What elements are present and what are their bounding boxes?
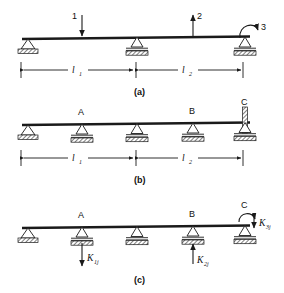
support-c-B-label: B (189, 209, 195, 219)
moment-3-label: 3 (261, 22, 266, 32)
structural-beam-diagram: 1 2 3 (0, 0, 284, 293)
dim-l2-label: l (182, 65, 185, 75)
support-c-A-label: A (78, 210, 84, 220)
reaction-k2j-sub: 2j (204, 261, 209, 267)
support-c-C-label: C (241, 200, 248, 210)
dim-l1-label: l (72, 65, 75, 75)
load-1-label: 1 (72, 11, 77, 21)
support-b-C-label: C (241, 97, 248, 107)
reaction-k2j-label: K (196, 255, 204, 265)
panel-a-caption: (a) (134, 87, 145, 97)
figure-canvas: 1 2 3 (0, 0, 284, 293)
dim-b-l2-sub: 2 (189, 159, 192, 165)
support-b-B-label: B (189, 106, 195, 116)
reaction-k3j-sub: 3j (265, 224, 271, 230)
support-b-A-label: A (78, 107, 84, 117)
dim-b-l1-label: l (72, 153, 75, 163)
reaction-k3j-label: K (258, 218, 266, 228)
panel-b-caption: (b) (134, 175, 146, 185)
load-2-label: 2 (197, 11, 202, 21)
panel-c-caption: (c) (134, 275, 145, 285)
dim-l1-sub: 1 (79, 71, 82, 77)
reaction-k1j-label: K (86, 253, 94, 263)
dim-l2-sub: 2 (189, 71, 192, 77)
dim-b-l1-sub: 1 (79, 159, 82, 165)
reaction-k1j-sub: 1j (94, 259, 99, 265)
dim-b-l2-label: l (182, 153, 185, 163)
